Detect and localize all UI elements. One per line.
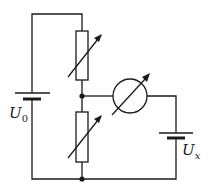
adjustable-meter — [112, 73, 150, 115]
label-ux: Ux — [182, 141, 201, 161]
variable-resistor-bottom — [68, 112, 102, 162]
battery-u0: U0 — [9, 93, 50, 124]
resistor-bottom-body — [76, 112, 88, 162]
label-u0: U0 — [9, 104, 28, 124]
resistor-top-body — [76, 31, 88, 80]
variable-resistor-top — [68, 31, 102, 80]
junction-bottom-dot — [79, 176, 84, 181]
junction-middle-dot — [79, 93, 84, 98]
battery-ux: Ux — [159, 133, 201, 161]
circuit-diagram: U0 Ux — [0, 0, 208, 192]
resistor-bottom-arrowhead-icon — [94, 115, 102, 123]
resistor-top-arrowhead-icon — [94, 34, 102, 42]
